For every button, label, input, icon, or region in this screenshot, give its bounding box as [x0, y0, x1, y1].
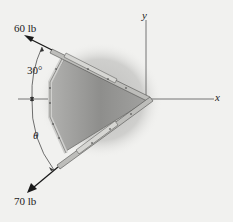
x-axis-label: x: [215, 91, 220, 103]
y-axis-label: y: [142, 9, 147, 21]
force-diagram: 60 lb 70 lb 30° θ y x: [0, 0, 233, 222]
angle-theta-label: θ: [33, 129, 38, 141]
angle-30-label: 30°: [27, 64, 42, 76]
force-60lb-arrow: [24, 35, 52, 50]
force-70lb-label: 70 lb: [14, 195, 36, 207]
force-60lb-label: 60 lb: [14, 22, 36, 34]
force-70lb-arrow: [27, 167, 58, 193]
